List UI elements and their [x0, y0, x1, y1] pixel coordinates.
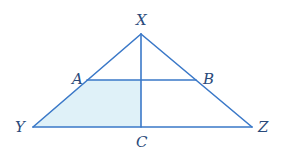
label-x: X	[135, 11, 148, 29]
label-c: C	[136, 133, 148, 151]
label-z: Z	[257, 118, 269, 136]
triangle-diagram: X A B Y Z C	[0, 0, 284, 153]
label-a: A	[70, 70, 83, 88]
label-y: Y	[15, 118, 27, 136]
shaded-region	[33, 80, 141, 127]
label-b: B	[202, 70, 214, 88]
